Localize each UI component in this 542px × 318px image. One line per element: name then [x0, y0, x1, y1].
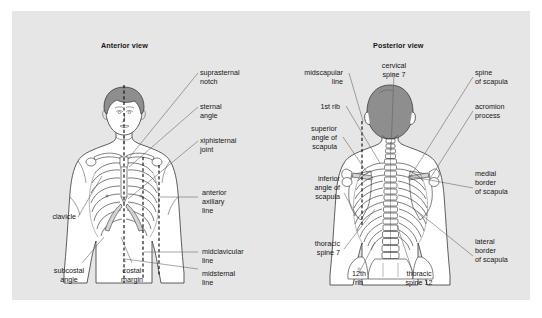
label-costal-margin: costal margin — [105, 266, 159, 284]
label-midclavicular-line: midclavicular line — [202, 247, 244, 265]
anterior-view: Anterior view — [12, 11, 271, 300]
label-medial-border-of-scapula: medial border of scapula — [475, 169, 508, 197]
label-thoracic-spine-12: thoracic spine 12 — [389, 269, 449, 287]
label-sternal-angle: sternal angle — [200, 102, 222, 120]
label-midscapular-line: midscapular line — [271, 68, 343, 86]
label-12th-rib: 12th rib — [337, 269, 381, 287]
label-inferior-angle-of-scapula: inferior angle of scapula — [271, 174, 340, 202]
label-1st-rib: 1st rib — [271, 102, 340, 111]
label-lateral-border-of-scapula: lateral border of scapula — [475, 237, 508, 265]
posterior-view: Posterior view — [271, 11, 530, 300]
label-superior-angle-of-scapula: superior angle of scapula — [271, 124, 337, 152]
label-xiphisternal-joint: xiphisternal joint — [200, 136, 236, 154]
label-spine-of-scapula: spine of scapula — [475, 68, 508, 86]
label-cervical-spine-7: cervical spine 7 — [369, 61, 419, 79]
label-subcostal-angle: subcostal angle — [39, 266, 99, 284]
label-suprasternal-notch: suprasternal notch — [200, 68, 240, 86]
label-thoracic-spine-7: thoracic spine 7 — [271, 239, 340, 257]
label-midsternal-line: midsternal line — [202, 269, 235, 287]
label-acromion-process: acromion process — [475, 102, 505, 120]
label-anterior-axillary-line: anterior axillary line — [202, 188, 226, 216]
label-clavicle: clavicle — [20, 212, 76, 221]
anatomy-figure-panel: Anterior view — [12, 11, 530, 300]
